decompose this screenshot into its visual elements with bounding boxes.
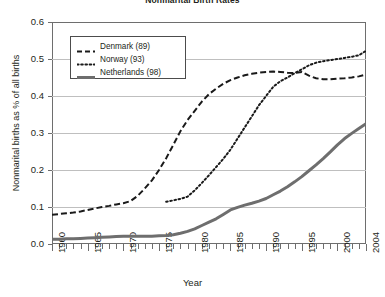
legend-item-1: Norway (93) <box>77 53 185 66</box>
x-tick-minor <box>223 244 224 249</box>
chart-legend: Denmark (89)Norway (93)Netherlands (98) <box>70 36 186 79</box>
x-tick-minor <box>323 244 324 249</box>
x-tick-minor <box>252 244 253 249</box>
legend-label: Denmark (89) <box>100 42 150 51</box>
x-tick-major <box>302 244 303 251</box>
x-tick-major <box>88 244 89 251</box>
x-tick-minor <box>81 244 82 249</box>
x-tick-minor <box>359 244 360 249</box>
legend-item-0: Denmark (89) <box>77 40 185 53</box>
x-tick-minor <box>216 244 217 249</box>
legend-item-2: Netherlands (98) <box>77 66 185 79</box>
x-tick-minor <box>188 244 189 249</box>
chart-figure: Nonmarital Birth Rates Nonmarital births… <box>0 0 385 297</box>
x-tick-minor <box>145 244 146 249</box>
x-tick-major <box>230 244 231 251</box>
x-tick-major <box>366 244 367 251</box>
series-line-0 <box>52 72 366 215</box>
x-tick-major <box>337 244 338 251</box>
x-tick-minor <box>73 244 74 249</box>
series-line-1 <box>166 51 366 202</box>
x-tick-minor <box>109 244 110 249</box>
x-tick-label: 2004 <box>370 232 381 253</box>
x-tick-minor <box>295 244 296 249</box>
legend-swatch-icon <box>77 68 95 77</box>
x-tick-minor <box>180 244 181 249</box>
x-tick-major <box>195 244 196 251</box>
x-axis-label: Year <box>0 277 385 288</box>
series-line-2 <box>52 124 366 239</box>
x-tick-major <box>52 244 53 251</box>
x-tick-minor <box>259 244 260 249</box>
legend-swatch-icon <box>77 42 95 51</box>
x-tick-minor <box>116 244 117 249</box>
legend-label: Netherlands (98) <box>100 68 161 77</box>
x-tick-major <box>159 244 160 251</box>
x-tick-major <box>266 244 267 251</box>
legend-swatch-icon <box>77 55 95 64</box>
x-tick-major <box>123 244 124 251</box>
x-tick-minor <box>152 244 153 249</box>
x-tick-minor <box>288 244 289 249</box>
x-tick-minor <box>330 244 331 249</box>
legend-label: Norway (93) <box>100 55 145 64</box>
